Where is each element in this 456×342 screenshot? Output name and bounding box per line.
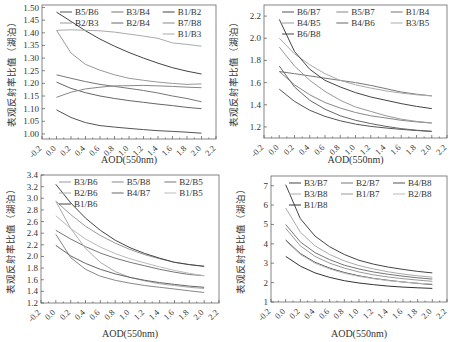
y-tick-label: 4 — [264, 239, 269, 249]
legend-label: B2/B7 — [356, 178, 380, 188]
x-tick-label: 2.0 — [419, 306, 434, 321]
y-tick-label: 1.4 — [250, 100, 262, 110]
x-tick-label: 1.4 — [146, 307, 161, 322]
y-tick-label: 1.6 — [27, 275, 39, 285]
chart-svg: -0.20.00.20.40.60.81.01.21.41.61.82.02.2… — [0, 171, 228, 342]
y-axis-label: 表观反射率比值（湖泊） — [5, 184, 16, 294]
legend-label: B5/B6 — [75, 7, 99, 17]
x-axis-label: AOD(550nm) — [101, 154, 157, 166]
y-axis-label: 表观反射率比值（湖泊） — [235, 184, 246, 294]
y-tick-label: 1.00 — [23, 129, 39, 139]
y-tick-label: 2.8 — [27, 205, 39, 215]
x-tick-label: 2.2 — [434, 306, 449, 321]
legend-label: B3/B5 — [406, 18, 430, 28]
x-tick-label: 2.0 — [188, 143, 203, 158]
y-tick-label: 2 — [264, 278, 269, 288]
legend-label: B5/B8 — [127, 177, 151, 187]
legend-label: B2/B8 — [408, 189, 432, 199]
legend-label: B5/B7 — [351, 7, 375, 17]
x-tick-label: 1.6 — [388, 142, 403, 157]
x-tick-label: 0.8 — [331, 306, 346, 321]
x-tick-label: -0.2 — [27, 143, 44, 160]
x-tick-label: -0.2 — [256, 306, 273, 323]
legend-label: B1/B2 — [178, 7, 202, 17]
series-line-B2-B6 — [56, 201, 204, 288]
x-tick-label: 0.4 — [297, 142, 312, 157]
legend-label: B6/B7 — [297, 7, 321, 17]
chart-panel-bottom-right: -0.20.00.20.40.60.81.01.21.41.61.82.02.2… — [228, 171, 456, 342]
y-tick-label: 3 — [264, 258, 269, 268]
x-tick-label: 1.8 — [404, 306, 419, 321]
x-tick-label: 2.2 — [434, 142, 449, 157]
series-line-B1-B5 — [56, 216, 204, 276]
legend-label: B4/B6 — [351, 18, 375, 28]
x-tick-label: 0.0 — [43, 143, 58, 158]
y-tick-label: 1.8 — [27, 263, 39, 273]
chart-svg: -0.20.00.20.40.60.81.01.21.41.61.82.02.2… — [0, 0, 228, 171]
x-tick-label: 0.6 — [316, 306, 331, 321]
y-tick-label: 1.2 — [27, 298, 38, 308]
x-tick-label: 0.2 — [57, 307, 72, 322]
y-tick-label: 2.2 — [250, 11, 261, 21]
legend-label: B1/B4 — [406, 7, 430, 17]
y-tick-label: 2.4 — [27, 228, 39, 238]
chart-svg: -0.20.00.20.40.60.81.01.21.41.61.82.02.2… — [228, 0, 456, 171]
series-line-B3-B8 — [286, 208, 433, 277]
y-tick-label: 2.2 — [27, 240, 38, 250]
y-tick-label: 1.6 — [250, 78, 262, 88]
series-line-B3-B5 — [279, 38, 432, 96]
x-tick-label: 0.6 — [312, 142, 327, 157]
x-axis-label: AOD(550nm) — [102, 328, 158, 340]
x-tick-label: 0.2 — [58, 143, 73, 158]
y-tick-label: 6 — [264, 200, 269, 210]
y-tick-label: 2.0 — [27, 251, 39, 261]
x-tick-label: 1.6 — [390, 306, 405, 321]
x-tick-label: 0.2 — [281, 142, 296, 157]
y-tick-label: 1.20 — [23, 78, 39, 88]
series-line-B5-B6 — [57, 110, 202, 133]
y-tick-label: 7 — [264, 181, 269, 191]
legend-label: B6/B8 — [297, 29, 321, 39]
y-tick-label: 1.25 — [23, 66, 39, 76]
x-tick-label: 1.0 — [117, 307, 132, 322]
x-tick-label: 0.4 — [302, 306, 317, 321]
x-tick-label: 2.0 — [419, 142, 434, 157]
y-tick-label: 1.40 — [23, 28, 39, 38]
x-tick-label: 0.8 — [102, 307, 117, 322]
x-tick-label: 1.6 — [159, 143, 174, 158]
legend-label: B3/B4 — [126, 7, 150, 17]
series-line-B6-B7 — [279, 89, 432, 131]
series-line-B3-B4 — [57, 75, 202, 102]
x-axis-label: AOD(550nm) — [331, 328, 387, 340]
y-tick-label: 3.2 — [27, 182, 38, 192]
legend-label: B7/B8 — [178, 18, 202, 28]
x-tick-label: 0.4 — [72, 143, 87, 158]
y-tick-label: 2.6 — [27, 217, 39, 227]
legend: B3/B7B2/B7B4/B8B3/B8B1/B7B2/B8B1/B8 — [289, 178, 432, 210]
legend-label: B2/B3 — [75, 18, 99, 28]
x-tick-label: 0.6 — [87, 307, 102, 322]
y-tick-label: 1.35 — [23, 40, 39, 50]
y-tick-label: 2.0 — [250, 33, 262, 43]
series-line-B4-B7 — [56, 245, 204, 287]
y-tick-label: 1.2 — [250, 122, 261, 132]
y-tick-label: 3.0 — [27, 193, 39, 203]
legend-label: B1/B3 — [178, 29, 202, 39]
y-tick-label: 1.50 — [23, 3, 39, 13]
y-tick-label: 1.45 — [23, 15, 39, 25]
x-tick-label: 2.0 — [191, 307, 206, 322]
x-tick-label: 0.0 — [272, 306, 287, 321]
x-tick-label: 1.2 — [132, 307, 147, 322]
legend-label: B3/B7 — [304, 178, 328, 188]
x-tick-label: 0.6 — [87, 143, 102, 158]
series-line-B7-B8 — [57, 85, 202, 97]
x-tick-label: 0.0 — [43, 307, 58, 322]
chart-panel-top-left: -0.20.00.20.40.60.81.01.21.41.61.82.02.2… — [0, 0, 228, 171]
series-line-B2-B7 — [286, 225, 433, 280]
legend-label: B4/B5 — [297, 18, 321, 28]
legend-label: B3/B8 — [304, 189, 328, 199]
legend-label: B1/B8 — [304, 200, 328, 210]
x-tick-label: 0.4 — [72, 307, 87, 322]
legend-label: B1/B7 — [356, 189, 380, 199]
x-tick-label: 1.8 — [174, 143, 189, 158]
